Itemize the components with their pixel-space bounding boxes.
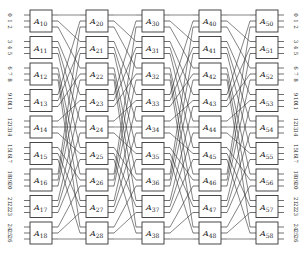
switch-box: A31: [142, 37, 164, 59]
switch-box: A52: [256, 63, 278, 85]
switch-box: A16: [30, 169, 52, 191]
port-label: 1: [7, 19, 13, 23]
switch-box: A58: [256, 222, 278, 244]
switch-box: A32: [142, 63, 164, 85]
port-label: 26: [293, 236, 299, 243]
port-label: 8: [7, 78, 13, 82]
switch-box: A43: [199, 90, 221, 112]
switch-box: A23: [86, 90, 108, 112]
port-label: 17: [7, 156, 13, 163]
switch-box: A35: [142, 143, 164, 165]
switch-box: A10: [30, 10, 52, 32]
port-label: 26: [7, 236, 13, 243]
switch-box: A47: [199, 196, 221, 218]
switch-box: A54: [256, 116, 278, 138]
switch-box: A46: [199, 169, 221, 191]
port-label: 6: [293, 66, 299, 70]
switch-box: A57: [256, 196, 278, 218]
switch-box: A53: [256, 90, 278, 112]
switch-box: A38: [142, 222, 164, 244]
shuffle-network-diagram: A10A11A12A13A14A15A16A17A18A20A21A22A23A…: [0, 0, 308, 253]
switch-box: A15: [30, 143, 52, 165]
switch-box: A11: [30, 37, 52, 59]
port-label: 14: [7, 130, 13, 137]
port-label: 11: [293, 103, 299, 110]
switch-box: A17: [30, 196, 52, 218]
switch-box: A22: [86, 63, 108, 85]
switch-box: A34: [142, 116, 164, 138]
output-labels: 0123456789101112131415161718192021222324…: [293, 13, 299, 243]
wire: [170, 54, 193, 181]
switch-box: A14: [30, 116, 52, 138]
port-label: 14: [293, 130, 299, 137]
wire: [114, 54, 136, 181]
port-label: 23: [7, 209, 13, 216]
port-label: 2: [7, 25, 13, 29]
switch-box: A27: [86, 196, 108, 218]
switch-box: A28: [86, 222, 108, 244]
port-label: 5: [293, 52, 299, 56]
switch-box: A33: [142, 90, 164, 112]
switch-box: A56: [256, 169, 278, 191]
switch-box: A45: [199, 143, 221, 165]
wire: [227, 54, 250, 181]
switch-box: A55: [256, 143, 278, 165]
port-label: 4: [293, 46, 299, 50]
wire: [58, 54, 80, 181]
port-label: 8: [293, 78, 299, 82]
port-label: 3: [293, 40, 299, 44]
switch-box: A24: [86, 116, 108, 138]
switch-box: A44: [199, 116, 221, 138]
port-label: 0: [7, 13, 13, 17]
switch-box: A25: [86, 143, 108, 165]
port-label: 7: [7, 72, 13, 76]
switch-box: A30: [142, 10, 164, 32]
switch-box: A12: [30, 63, 52, 85]
input-labels: 0123456789101112131415161718192021222324…: [7, 13, 13, 243]
port-label: 17: [293, 156, 299, 163]
port-label: 7: [293, 72, 299, 76]
switch-box: A37: [142, 196, 164, 218]
port-label: 11: [7, 103, 13, 110]
switch-box: A50: [256, 10, 278, 32]
switch-box: A41: [199, 37, 221, 59]
switch-box: A48: [199, 222, 221, 244]
switch-box: A26: [86, 169, 108, 191]
switch-box: A40: [199, 10, 221, 32]
port-label: 2: [293, 25, 299, 29]
port-label: 20: [293, 183, 299, 190]
port-label: 6: [7, 66, 13, 70]
switch-box: A18: [30, 222, 52, 244]
port-label: 23: [293, 209, 299, 216]
switch-box: A21: [86, 37, 108, 59]
switch-box: A36: [142, 169, 164, 191]
port-label: 20: [7, 183, 13, 190]
switch-box: A20: [86, 10, 108, 32]
switch-box: A13: [30, 90, 52, 112]
switch-box: A42: [199, 63, 221, 85]
port-label: 5: [7, 52, 13, 56]
port-label: 4: [7, 46, 13, 50]
port-label: 0: [293, 13, 299, 17]
switch-box: A51: [256, 37, 278, 59]
port-label: 1: [293, 19, 299, 23]
port-label: 3: [7, 40, 13, 44]
